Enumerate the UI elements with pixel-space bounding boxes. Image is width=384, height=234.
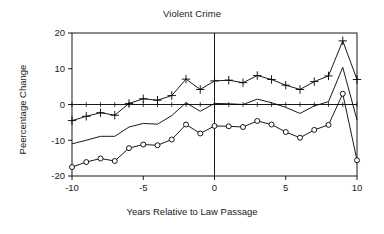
x-tick-label: 10 (352, 182, 363, 193)
y-tick-label: -20 (51, 170, 65, 181)
marker-circle (155, 143, 160, 148)
marker-circle (355, 158, 360, 163)
x-tick-label: -5 (139, 182, 147, 193)
marker-plus (239, 78, 247, 86)
marker-plus (267, 75, 275, 83)
marker-circle (169, 137, 174, 142)
chart-page: Violent Crime Peercentage Change Years R… (0, 0, 384, 234)
marker-circle (255, 118, 260, 123)
y-tick-label: 20 (54, 27, 65, 38)
marker-plus (139, 95, 147, 103)
marker-plus (296, 85, 304, 93)
marker-plus (324, 72, 332, 80)
marker-plus (339, 37, 347, 45)
marker-plus (82, 112, 90, 120)
y-tick-label: 10 (54, 63, 65, 74)
marker-circle (84, 160, 89, 165)
marker-plus (353, 75, 361, 83)
marker-circle (70, 165, 75, 170)
marker-plus (225, 76, 233, 84)
marker-circle (212, 123, 217, 128)
chart-plot-area: -20-1001020-10-50510 (0, 0, 384, 234)
marker-plus (68, 116, 76, 124)
y-tick-label: -10 (51, 135, 65, 146)
x-tick-label: 0 (212, 182, 217, 193)
marker-plus (196, 85, 204, 93)
marker-plus (210, 77, 218, 85)
marker-plus (310, 77, 318, 85)
marker-circle (340, 91, 345, 96)
x-tick-label: 5 (283, 182, 288, 193)
marker-circle (112, 158, 117, 163)
marker-circle (98, 156, 103, 161)
marker-circle (312, 127, 317, 132)
marker-plus (253, 71, 261, 79)
marker-circle (298, 135, 303, 140)
marker-circle (184, 122, 189, 127)
marker-plus (153, 96, 161, 104)
marker-plus (96, 109, 104, 117)
marker-plus (282, 81, 290, 89)
marker-circle (141, 142, 146, 147)
marker-circle (269, 122, 274, 127)
marker-circle (241, 125, 246, 130)
x-tick-label: -10 (65, 182, 79, 193)
marker-circle (283, 130, 288, 135)
marker-circle (127, 146, 132, 151)
marker-circle (226, 124, 231, 129)
marker-circle (198, 131, 203, 136)
marker-circle (326, 122, 331, 127)
y-tick-label: 0 (60, 99, 65, 110)
